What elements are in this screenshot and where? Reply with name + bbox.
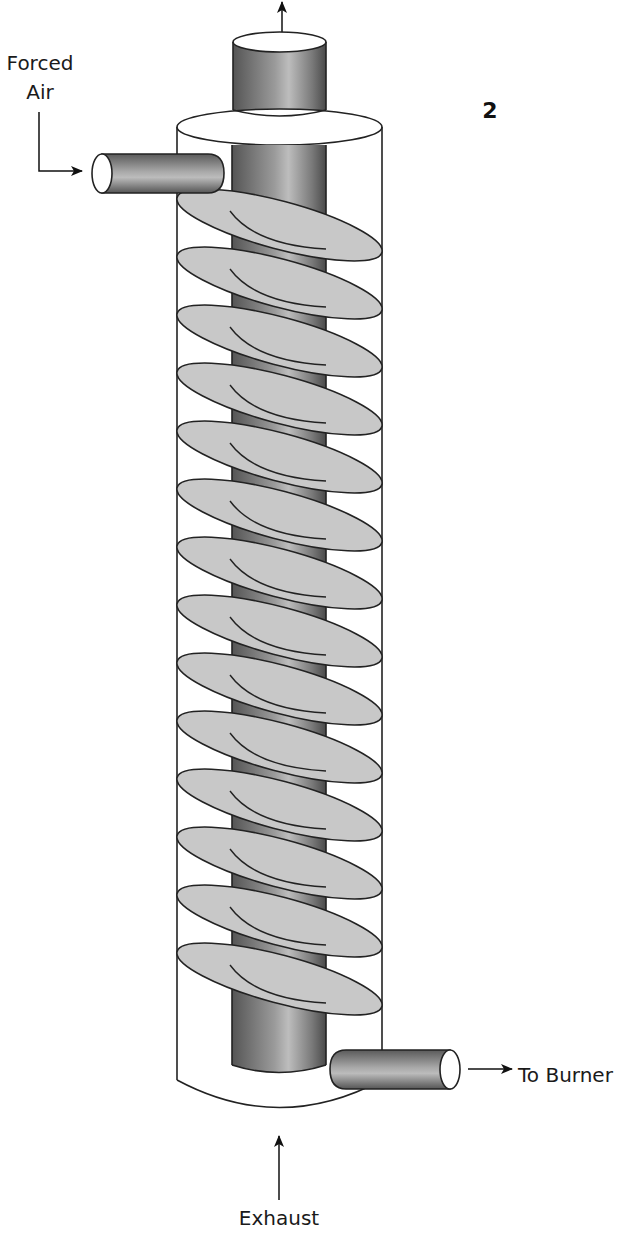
to-burner-outlet-pipe (330, 1050, 460, 1089)
forced-air-label-line2: Air (26, 80, 54, 104)
central-pipe-top (233, 32, 326, 110)
forced-air-arrow (39, 112, 82, 171)
forced-air-label-line1: Forced (7, 51, 74, 75)
heat-exchanger-diagram: Forced Air To Burner Exhaust 2 (0, 0, 627, 1249)
exhaust-label: Exhaust (239, 1206, 320, 1230)
forced-air-inlet-pipe (92, 154, 224, 193)
to-burner-label: To Burner (517, 1063, 614, 1087)
figure-number: 2 (482, 98, 497, 123)
